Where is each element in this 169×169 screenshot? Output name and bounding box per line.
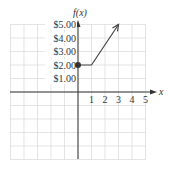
x-tick-label: 4 <box>130 94 135 105</box>
graph: x f(x) 12345 $1.00$2.00$3.00$4.00$5.00 <box>0 0 169 169</box>
y-axis-label: f(x) <box>73 7 88 19</box>
y-tick-label: $2.00 <box>54 60 77 71</box>
x-axis-arrow-icon <box>150 90 157 95</box>
y-tick-label: $4.00 <box>54 33 77 44</box>
x-tick-label: 3 <box>116 94 121 105</box>
x-tick-labels: 12345 <box>89 94 148 105</box>
series-f <box>75 25 119 69</box>
x-axis-label: x <box>158 86 164 97</box>
y-tick-label: $3.00 <box>54 46 77 57</box>
x-tick-label: 2 <box>103 94 108 105</box>
y-tick-labels: $1.00$2.00$3.00$4.00$5.00 <box>45 19 77 84</box>
x-tick-label: 5 <box>143 94 148 105</box>
y-tick-label: $5.00 <box>54 19 77 30</box>
closed-dot-icon <box>75 62 81 68</box>
x-tick-label: 1 <box>89 94 94 105</box>
y-tick-label: $1.00 <box>54 73 77 84</box>
axes: x f(x) <box>10 7 164 159</box>
series-line <box>78 25 119 66</box>
